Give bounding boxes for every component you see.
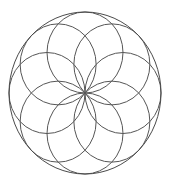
rosette-diagram <box>0 0 170 180</box>
figure-canvas <box>0 0 170 180</box>
